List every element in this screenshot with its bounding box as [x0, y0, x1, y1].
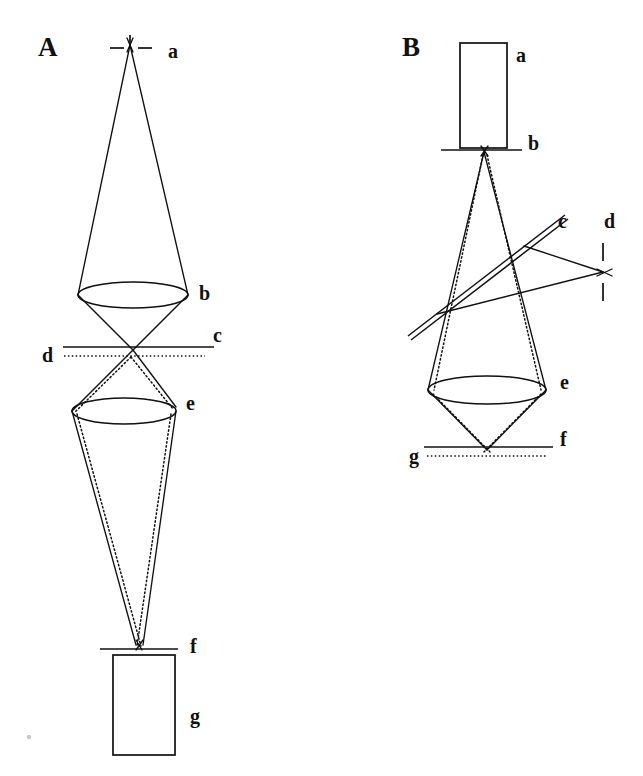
panel-a-letter: A [38, 32, 58, 62]
label-e-panel-b: e [560, 371, 569, 393]
reflected-rays-to-focus-d [437, 246, 612, 314]
label-c-panel-a: c [213, 324, 222, 346]
ray-cone-lense-to-image-dotted [77, 414, 171, 646]
lens-b [78, 282, 188, 308]
lens-e [72, 398, 176, 424]
label-a-panel-a: a [168, 40, 178, 62]
detector-box-g [113, 655, 175, 755]
panel-b-letter: B [402, 32, 420, 62]
ray-cone-lense-to-image-solid-b [428, 390, 546, 450]
label-f-panel-b: f [560, 428, 567, 450]
label-d-panel-a: d [42, 344, 53, 366]
label-c-panel-b: c [558, 210, 567, 232]
label-g-panel-b: g [409, 445, 419, 468]
label-g-panel-a: g [190, 705, 200, 728]
label-e-panel-a: e [186, 392, 195, 414]
beam-splitter-c [408, 215, 568, 340]
diagram-canvas: A [0, 0, 643, 776]
panel-b-group: B [402, 32, 615, 468]
label-d-panel-b: d [604, 210, 615, 232]
scan-artifact-speck [27, 735, 31, 739]
label-a-panel-b: a [516, 44, 526, 66]
ray-cone-lense-to-image-dotted-b [433, 394, 541, 452]
ray-cone-lense-to-image-solid [72, 411, 176, 645]
optical-ray-diagram-figure: A [0, 0, 643, 776]
label-f-panel-a: f [190, 635, 197, 657]
ray-cone-lensb-to-crossover [78, 295, 188, 350]
source-box-a [460, 43, 507, 148]
ray-cone-source-to-lens-b [78, 38, 188, 295]
lens-e-panel-b [428, 376, 546, 404]
panel-a-group: A [38, 32, 222, 755]
ray-cone-aperture-to-lense-dotted [434, 155, 541, 390]
ray-cone-aperture-to-lense-solid [428, 152, 546, 390]
label-b-panel-b: b [528, 132, 539, 154]
label-b-panel-a: b [199, 282, 210, 304]
